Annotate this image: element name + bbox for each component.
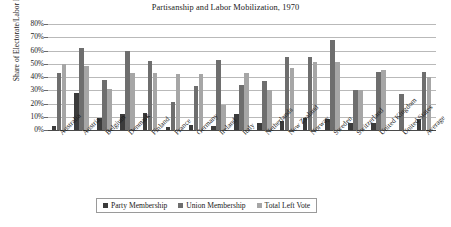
y-tick-label: 60% [4,46,44,55]
y-tick-mark [44,104,48,105]
chart-legend: Party MembershipUnion MembershipTotal Le… [96,198,317,213]
y-tick-label: 70% [4,32,44,41]
y-tick-mark [44,90,48,91]
chart-title: Partisanship and Labor Mobilization, 197… [0,3,451,12]
y-tick-mark [44,64,48,65]
legend-item[interactable]: Party Membership [103,201,167,210]
legend-swatch-icon [178,203,183,208]
legend-swatch-icon [103,203,108,208]
y-tick-label: 80% [4,19,44,28]
legend-label: Party Membership [111,201,167,210]
y-tick-label: 20% [4,99,44,108]
chart-container: Partisanship and Labor Mobilization, 197… [0,0,451,227]
y-tick-mark [44,51,48,52]
y-tick-label: 0% [4,125,44,134]
x-axis-labels: AustraliaAustriaBelgiumDenmarkFinlandFra… [48,131,436,189]
legend-label: Total Left Vote [265,201,311,210]
y-tick-label: 40% [4,72,44,81]
y-tick-mark [44,37,48,38]
y-tick-label: 10% [4,112,44,121]
y-tick-mark [44,117,48,118]
y-tick-label: 30% [4,85,44,94]
y-tick-mark [44,24,48,25]
legend-swatch-icon [257,203,262,208]
y-tick-mark [44,77,48,78]
legend-label: Union Membership [186,201,245,210]
y-tick-label: 50% [4,59,44,68]
legend-item[interactable]: Total Left Vote [257,201,311,210]
legend-item[interactable]: Union Membership [178,201,245,210]
